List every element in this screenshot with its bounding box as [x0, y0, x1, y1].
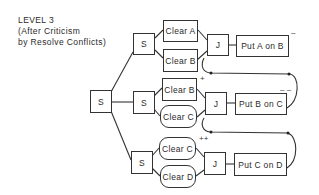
put-a-on-b-node: Put A on B [236, 35, 289, 57]
clear-b-mid-node: Clear B [162, 78, 197, 101]
join-node-a: J [207, 34, 229, 56]
put-b-on-c-node: Put B on C [235, 93, 287, 115]
split-node-c: S [131, 151, 153, 174]
conflict-mark-plus: + [200, 74, 205, 83]
conflict-mark-double-plus: ++ [199, 134, 208, 143]
join-node-c: J [204, 152, 226, 175]
clear-c-mid-node: Clear C [160, 105, 197, 128]
root-split-node: S [90, 90, 112, 113]
conflict-mark-double-minus: – – [280, 85, 291, 94]
clear-c-bottom-node: Clear C [159, 137, 196, 160]
clear-d-node: Clear D [160, 165, 196, 188]
conflict-mark-minus: – [291, 28, 295, 37]
split-node-b: S [133, 91, 155, 114]
clear-a-node: Clear A [163, 20, 198, 42]
clear-b-top-node: Clear B [163, 49, 198, 72]
put-c-on-d-node: Put C on D [234, 153, 287, 176]
split-node-a: S [133, 33, 155, 55]
join-node-b: J [205, 92, 227, 115]
